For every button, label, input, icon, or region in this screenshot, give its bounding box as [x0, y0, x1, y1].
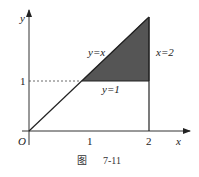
y-tick-1: 1 [20, 75, 26, 87]
origin-label: O [18, 135, 26, 147]
x-tick-1: 1 [87, 135, 93, 147]
caption-prefix: 图 [77, 155, 87, 166]
diagram-canvas: y x O 1 2 1 y=x y=1 x=2 图 7-11 [0, 0, 199, 177]
caption-number: 7-11 [103, 155, 121, 166]
y-axis-label: y [19, 12, 25, 24]
x-axis-label: x [175, 135, 181, 147]
label-x-equals-2: x=2 [155, 46, 174, 58]
label-y-equals-x: y=x [87, 46, 105, 58]
x-tick-2: 2 [146, 135, 152, 147]
label-y-equals-1: y=1 [101, 83, 120, 95]
